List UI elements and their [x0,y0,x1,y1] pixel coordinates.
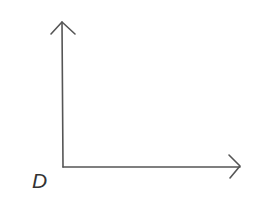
up-arrowhead-icon [51,22,75,34]
origin-label: D [32,170,47,191]
vertical-axis [51,22,75,167]
horizontal-axis [63,155,240,178]
